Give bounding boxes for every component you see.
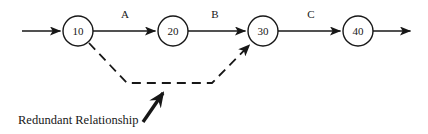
node-40-label: 40 xyxy=(353,25,365,37)
annotation-pointer-arrow xyxy=(143,93,163,122)
node-10-label: 10 xyxy=(73,25,85,37)
edge-a-label: A xyxy=(121,8,129,20)
annotation-label: Redundant Relationship xyxy=(18,113,138,127)
diagram-svg: 10 20 30 40 A B C Redundant Relationship xyxy=(0,0,428,134)
node-20-label: 20 xyxy=(168,25,180,37)
node-30[interactable]: 30 xyxy=(248,16,278,46)
node-20[interactable]: 20 xyxy=(158,16,188,46)
node-30-label: 30 xyxy=(258,25,270,37)
diagram-canvas: 10 20 30 40 A B C Redundant Relationship xyxy=(0,0,428,134)
edge-c-label: C xyxy=(307,8,314,20)
edge-b-label: B xyxy=(211,8,218,20)
edge-redundant-dashed xyxy=(89,43,250,83)
node-40[interactable]: 40 xyxy=(343,16,373,46)
node-10[interactable]: 10 xyxy=(63,16,93,46)
